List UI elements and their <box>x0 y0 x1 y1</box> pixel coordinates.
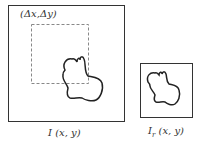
image-frame <box>9 6 125 122</box>
dashed-window <box>32 25 89 84</box>
shape-blob-reference <box>147 72 179 105</box>
reference-frame <box>141 64 193 118</box>
diagram-canvas <box>0 0 203 145</box>
image-label: I (x, y) <box>48 127 81 138</box>
reference-label: Ir (x, y) <box>148 125 184 139</box>
reference-label-args: (x, y) <box>155 125 184 136</box>
shape-blob-main <box>63 57 103 101</box>
offset-label: (Δx,Δy) <box>20 8 57 19</box>
